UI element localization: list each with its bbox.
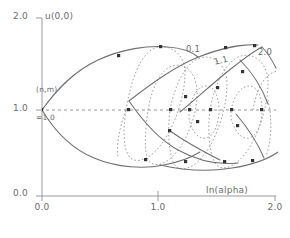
secondary-loop-g xyxy=(253,71,290,110)
marker-turning-lower-c xyxy=(223,160,226,163)
marker-fold-upper-c xyxy=(253,44,256,47)
x-tick-label-0: 0.0 xyxy=(30,203,54,212)
x-tick-label-1: 1.0 xyxy=(146,203,170,212)
secondary-tail-left xyxy=(117,110,126,158)
bifurcation-diagram-figure: 2.0 1.0 0.0 0.0 1.0 2.0 u(0,0) ln(alpha)… xyxy=(0,0,290,238)
secondary-loop-c xyxy=(209,55,268,168)
marker-turning-lower-b xyxy=(184,160,187,163)
primary-branch-annotation: (n,m) =1.0 xyxy=(36,66,57,141)
secondary-loop-d xyxy=(189,86,219,138)
marker-interior-c xyxy=(216,86,219,89)
secondary-loops xyxy=(117,47,290,169)
primary-branch-annotation-line1: (n,m) xyxy=(36,85,57,94)
branch-markers xyxy=(40,44,263,163)
x-tick-label-2: 2.0 xyxy=(263,203,287,212)
marker-interior-d xyxy=(241,70,244,73)
marker-upper-left-a xyxy=(117,54,120,57)
y-tick-label-1: 1.0 xyxy=(2,104,28,113)
marker-branch-point-5 xyxy=(230,108,233,111)
marker-interior-b xyxy=(184,95,187,98)
y-axis-title: u(0,0) xyxy=(45,12,73,21)
primary-branch-annotation-line2: =1.0 xyxy=(36,113,57,122)
axis-lines xyxy=(42,18,276,196)
curve-label-2-0: 2.0 xyxy=(258,48,272,57)
marker-branch-point-1 xyxy=(127,108,130,111)
marker-branch-point-3 xyxy=(188,108,191,111)
secondary-tail-right xyxy=(266,100,271,156)
y-tick-label-2: 2.0 xyxy=(2,12,28,21)
marker-interior-e xyxy=(196,120,199,123)
marker-branch-point-2 xyxy=(169,108,172,111)
marker-turning-lower-d xyxy=(251,159,254,162)
secondary-loop-b xyxy=(169,57,227,169)
marker-branch-point-4 xyxy=(209,108,212,111)
marker-fold-upper-b xyxy=(224,46,227,49)
secondary-loop-a xyxy=(124,47,185,161)
marker-interior-f xyxy=(236,124,239,127)
primary-branches xyxy=(42,45,278,170)
connector-segment-mid xyxy=(170,131,220,160)
x-axis-title: ln(alpha) xyxy=(206,186,248,195)
marker-interior-a xyxy=(168,129,171,132)
curve-label-0-1: 0.1 xyxy=(186,45,200,54)
y-tick-label-0: 0.0 xyxy=(2,189,28,198)
marker-fold-upper-a xyxy=(159,45,162,48)
marker-branch-point-6 xyxy=(260,108,263,111)
marker-turning-lower-a xyxy=(144,158,147,161)
branch-nm-1-0-lower xyxy=(42,110,200,167)
connector-segment-right xyxy=(236,114,264,158)
